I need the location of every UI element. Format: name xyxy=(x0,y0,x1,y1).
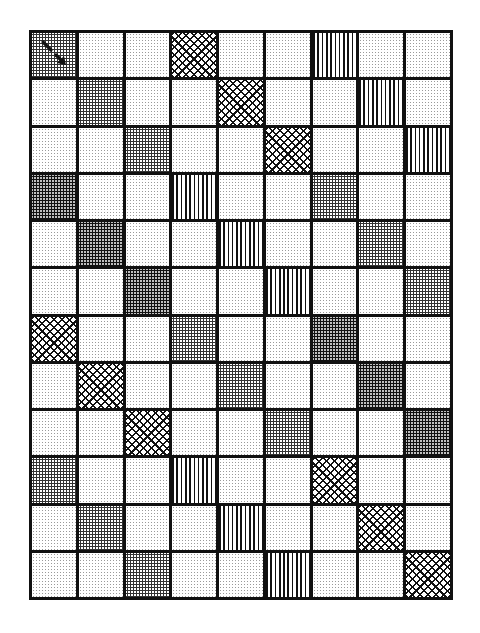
grid-cell-light-dots[interactable] xyxy=(359,269,403,313)
grid-cell-medium-dots[interactable] xyxy=(406,269,450,313)
grid-cell-medium-dots[interactable] xyxy=(313,175,357,219)
grid-cell-crosshatch[interactable] xyxy=(266,128,310,172)
grid-cell-dark-dots[interactable] xyxy=(359,364,403,408)
grid-cell-light-dots[interactable] xyxy=(126,222,170,266)
grid-cell-dark-dots[interactable] xyxy=(313,317,357,361)
grid-cell-light-dots[interactable] xyxy=(313,364,357,408)
grid-cell-light-dots[interactable] xyxy=(359,33,403,77)
grid-cell-light-dots[interactable] xyxy=(266,175,310,219)
grid-cell-light-dots[interactable] xyxy=(266,458,310,502)
grid-cell-light-dots[interactable] xyxy=(359,175,403,219)
grid-cell-light-dots[interactable] xyxy=(313,553,357,597)
grid-cell-dark-dots[interactable] xyxy=(32,175,76,219)
grid-cell-light-dots[interactable] xyxy=(126,33,170,77)
grid-cell-light-dots[interactable] xyxy=(266,80,310,124)
grid-cell-light-dots[interactable] xyxy=(172,80,216,124)
grid-cell-light-dots[interactable] xyxy=(219,175,263,219)
grid-cell-vertical-stripes[interactable] xyxy=(313,33,357,77)
grid-cell-medium-dots[interactable] xyxy=(79,506,123,550)
grid-cell-light-dots[interactable] xyxy=(126,80,170,124)
grid-cell-light-dots[interactable] xyxy=(266,317,310,361)
grid-cell-light-dots[interactable] xyxy=(359,317,403,361)
grid-cell-light-dots[interactable] xyxy=(79,269,123,313)
grid-cell-light-dots[interactable] xyxy=(219,458,263,502)
grid-cell-crosshatch[interactable] xyxy=(406,553,450,597)
grid-cell-light-dots[interactable] xyxy=(406,175,450,219)
grid-cell-light-dots[interactable] xyxy=(406,80,450,124)
grid-cell-light-dots[interactable] xyxy=(79,175,123,219)
grid-cell-light-dots[interactable] xyxy=(172,222,216,266)
grid-cell-light-dots[interactable] xyxy=(172,269,216,313)
grid-cell-light-dots[interactable] xyxy=(219,553,263,597)
grid-cell-light-dots[interactable] xyxy=(126,364,170,408)
grid-cell-medium-dots[interactable] xyxy=(32,33,76,77)
grid-cell-light-dots[interactable] xyxy=(32,128,76,172)
grid-cell-medium-dots[interactable] xyxy=(79,80,123,124)
grid-cell-light-dots[interactable] xyxy=(79,317,123,361)
grid-cell-light-dots[interactable] xyxy=(313,411,357,455)
grid-cell-light-dots[interactable] xyxy=(266,222,310,266)
grid-cell-light-dots[interactable] xyxy=(79,411,123,455)
grid-cell-crosshatch[interactable] xyxy=(32,317,76,361)
grid-cell-light-dots[interactable] xyxy=(79,458,123,502)
grid-cell-dark-dots[interactable] xyxy=(126,269,170,313)
grid-cell-vertical-stripes[interactable] xyxy=(359,80,403,124)
grid-cell-light-dots[interactable] xyxy=(219,411,263,455)
grid-cell-medium-dots[interactable] xyxy=(219,364,263,408)
grid-cell-light-dots[interactable] xyxy=(313,269,357,313)
grid-cell-dark-dots[interactable] xyxy=(79,222,123,266)
grid-cell-vertical-stripes[interactable] xyxy=(406,128,450,172)
grid-cell-light-dots[interactable] xyxy=(313,506,357,550)
grid-cell-light-dots[interactable] xyxy=(406,364,450,408)
grid-cell-light-dots[interactable] xyxy=(79,33,123,77)
grid-cell-vertical-stripes[interactable] xyxy=(172,175,216,219)
grid-cell-light-dots[interactable] xyxy=(406,317,450,361)
grid-cell-light-dots[interactable] xyxy=(219,269,263,313)
grid-cell-light-dots[interactable] xyxy=(266,33,310,77)
grid-cell-light-dots[interactable] xyxy=(359,458,403,502)
grid-cell-light-dots[interactable] xyxy=(359,411,403,455)
grid-cell-light-dots[interactable] xyxy=(79,553,123,597)
grid-cell-vertical-stripes[interactable] xyxy=(172,458,216,502)
grid-cell-crosshatch[interactable] xyxy=(359,506,403,550)
grid-cell-light-dots[interactable] xyxy=(219,33,263,77)
grid-cell-light-dots[interactable] xyxy=(32,364,76,408)
grid-cell-light-dots[interactable] xyxy=(126,506,170,550)
grid-cell-light-dots[interactable] xyxy=(172,364,216,408)
grid-cell-light-dots[interactable] xyxy=(32,222,76,266)
grid-cell-light-dots[interactable] xyxy=(406,506,450,550)
grid-cell-light-dots[interactable] xyxy=(266,506,310,550)
grid-cell-medium-dots[interactable] xyxy=(126,553,170,597)
grid-cell-light-dots[interactable] xyxy=(219,317,263,361)
grid-cell-light-dots[interactable] xyxy=(172,506,216,550)
grid-cell-light-dots[interactable] xyxy=(406,458,450,502)
grid-cell-vertical-stripes[interactable] xyxy=(219,222,263,266)
grid-cell-light-dots[interactable] xyxy=(32,411,76,455)
grid-cell-light-dots[interactable] xyxy=(126,317,170,361)
grid-cell-light-dots[interactable] xyxy=(32,80,76,124)
grid-cell-light-dots[interactable] xyxy=(313,222,357,266)
grid-cell-light-dots[interactable] xyxy=(313,80,357,124)
grid-cell-medium-dots[interactable] xyxy=(359,222,403,266)
grid-cell-light-dots[interactable] xyxy=(126,458,170,502)
grid-cell-light-dots[interactable] xyxy=(32,269,76,313)
grid-cell-light-dots[interactable] xyxy=(359,128,403,172)
grid-cell-vertical-stripes[interactable] xyxy=(219,506,263,550)
grid-cell-light-dots[interactable] xyxy=(172,128,216,172)
grid-cell-medium-dots[interactable] xyxy=(172,317,216,361)
grid-cell-light-dots[interactable] xyxy=(126,175,170,219)
grid-cell-medium-dots[interactable] xyxy=(32,458,76,502)
grid-cell-light-dots[interactable] xyxy=(172,411,216,455)
grid-cell-crosshatch[interactable] xyxy=(313,458,357,502)
grid-cell-light-dots[interactable] xyxy=(313,128,357,172)
grid-cell-light-dots[interactable] xyxy=(359,553,403,597)
grid-cell-vertical-stripes[interactable] xyxy=(266,553,310,597)
grid-cell-crosshatch[interactable] xyxy=(172,33,216,77)
grid-cell-crosshatch[interactable] xyxy=(219,80,263,124)
grid-cell-medium-dots[interactable] xyxy=(266,411,310,455)
grid-cell-light-dots[interactable] xyxy=(32,553,76,597)
grid-cell-light-dots[interactable] xyxy=(406,33,450,77)
grid-cell-light-dots[interactable] xyxy=(219,128,263,172)
grid-cell-vertical-stripes[interactable] xyxy=(266,269,310,313)
grid-cell-crosshatch[interactable] xyxy=(126,411,170,455)
